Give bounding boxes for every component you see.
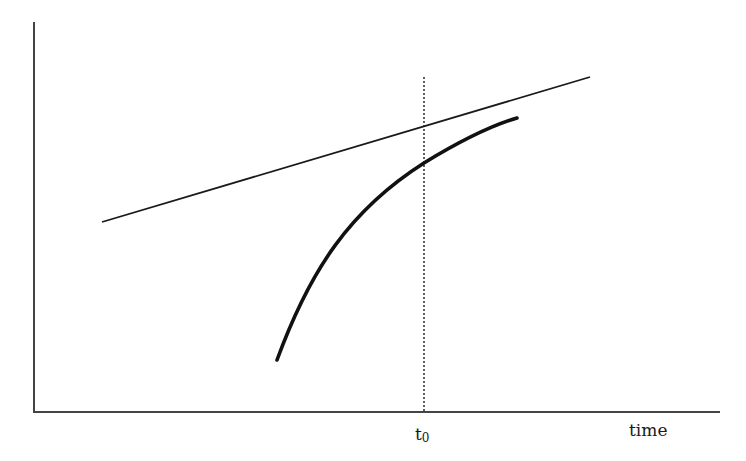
t0-label-subscript: 0 bbox=[422, 431, 430, 445]
t0-label: t0 bbox=[415, 424, 429, 444]
concave-curve bbox=[277, 118, 517, 360]
diagram-canvas bbox=[0, 0, 746, 461]
x-axis-label: time bbox=[629, 420, 667, 440]
t0-label-main: t bbox=[415, 424, 422, 444]
straight-line bbox=[102, 77, 590, 222]
